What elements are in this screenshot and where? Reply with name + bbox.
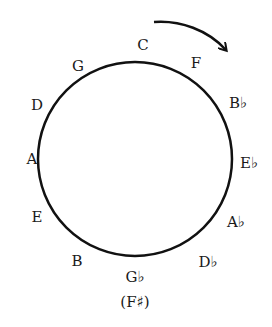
note-g: G — [72, 57, 84, 75]
clockwise-arrow-icon — [154, 22, 226, 50]
note-b-flat: B♭ — [229, 94, 247, 112]
note-labels: C F B♭ E♭ A♭ D♭ G♭ (F♯) B E A D G — [26, 36, 258, 311]
note-d: D — [31, 96, 43, 114]
note-e: E — [32, 208, 43, 226]
note-c: C — [137, 36, 148, 54]
note-g-flat: G♭ — [125, 268, 144, 286]
note-e-flat: E♭ — [240, 154, 258, 172]
note-f-sharp-enharmonic: (F♯) — [120, 293, 149, 311]
note-f: F — [191, 54, 201, 72]
note-d-flat: D♭ — [198, 253, 217, 271]
note-b: B — [71, 252, 82, 270]
circle-of-fourths-diagram: C F B♭ E♭ A♭ D♭ G♭ (F♯) B E A D G — [0, 0, 272, 327]
note-a: A — [26, 150, 38, 168]
note-a-flat: A♭ — [226, 213, 245, 231]
circle-outline — [38, 62, 232, 256]
